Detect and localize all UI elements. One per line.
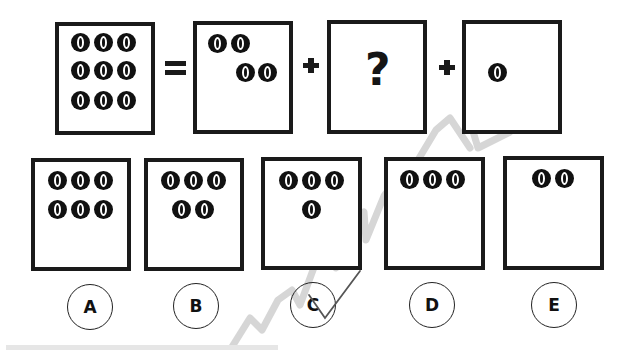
coin-icon xyxy=(258,63,277,82)
option-d-text: D xyxy=(425,295,439,315)
option-e-text: E xyxy=(548,295,560,315)
coin-icon xyxy=(94,33,113,52)
coin-icon xyxy=(532,169,551,188)
coin-icon xyxy=(207,171,226,190)
coin-icon xyxy=(71,171,90,190)
option-a-text: A xyxy=(83,297,96,317)
coin-icon xyxy=(48,200,67,219)
coin-icon xyxy=(231,34,250,53)
coin-icon xyxy=(117,91,136,110)
coin-icon xyxy=(325,171,344,190)
coin-icon xyxy=(71,200,90,219)
coin-icon xyxy=(71,61,90,80)
coin-icon xyxy=(71,33,90,52)
coin-icon xyxy=(161,171,180,190)
coin-icon xyxy=(423,170,442,189)
coin-icon xyxy=(94,200,113,219)
coin-icon xyxy=(71,91,90,110)
coin-icon xyxy=(279,171,298,190)
option-e-label[interactable]: E xyxy=(531,282,577,328)
coin-icon xyxy=(184,171,203,190)
coin-icon xyxy=(94,171,113,190)
option-d-label[interactable]: D xyxy=(409,282,455,328)
coin-icon xyxy=(555,169,574,188)
coin-icon xyxy=(488,63,507,82)
part3-box xyxy=(462,20,562,134)
coin-icon xyxy=(94,91,113,110)
coin-icon xyxy=(236,63,255,82)
coin-icon xyxy=(172,200,191,219)
coin-icon xyxy=(195,200,214,219)
coin-icon xyxy=(48,171,67,190)
question-mark-icon: ? xyxy=(365,48,391,92)
coin-icon xyxy=(208,34,227,53)
option-a-label[interactable]: A xyxy=(67,284,113,330)
option-c-text: C xyxy=(307,295,319,315)
coin-icon xyxy=(94,61,113,80)
unknown-box: ? xyxy=(327,20,427,134)
coin-icon xyxy=(117,33,136,52)
option-b-text: B xyxy=(190,296,203,316)
coin-icon xyxy=(446,170,465,189)
option-e-box[interactable] xyxy=(503,156,604,270)
option-b-label[interactable]: B xyxy=(173,283,219,329)
coin-icon xyxy=(117,61,136,80)
coin-icon xyxy=(302,171,321,190)
coin-icon xyxy=(400,170,419,189)
coin-icon xyxy=(302,200,321,219)
footer-bar xyxy=(6,345,278,350)
puzzle-stage: ? A B C D E xyxy=(0,0,626,350)
option-c-label[interactable]: C xyxy=(290,282,336,328)
